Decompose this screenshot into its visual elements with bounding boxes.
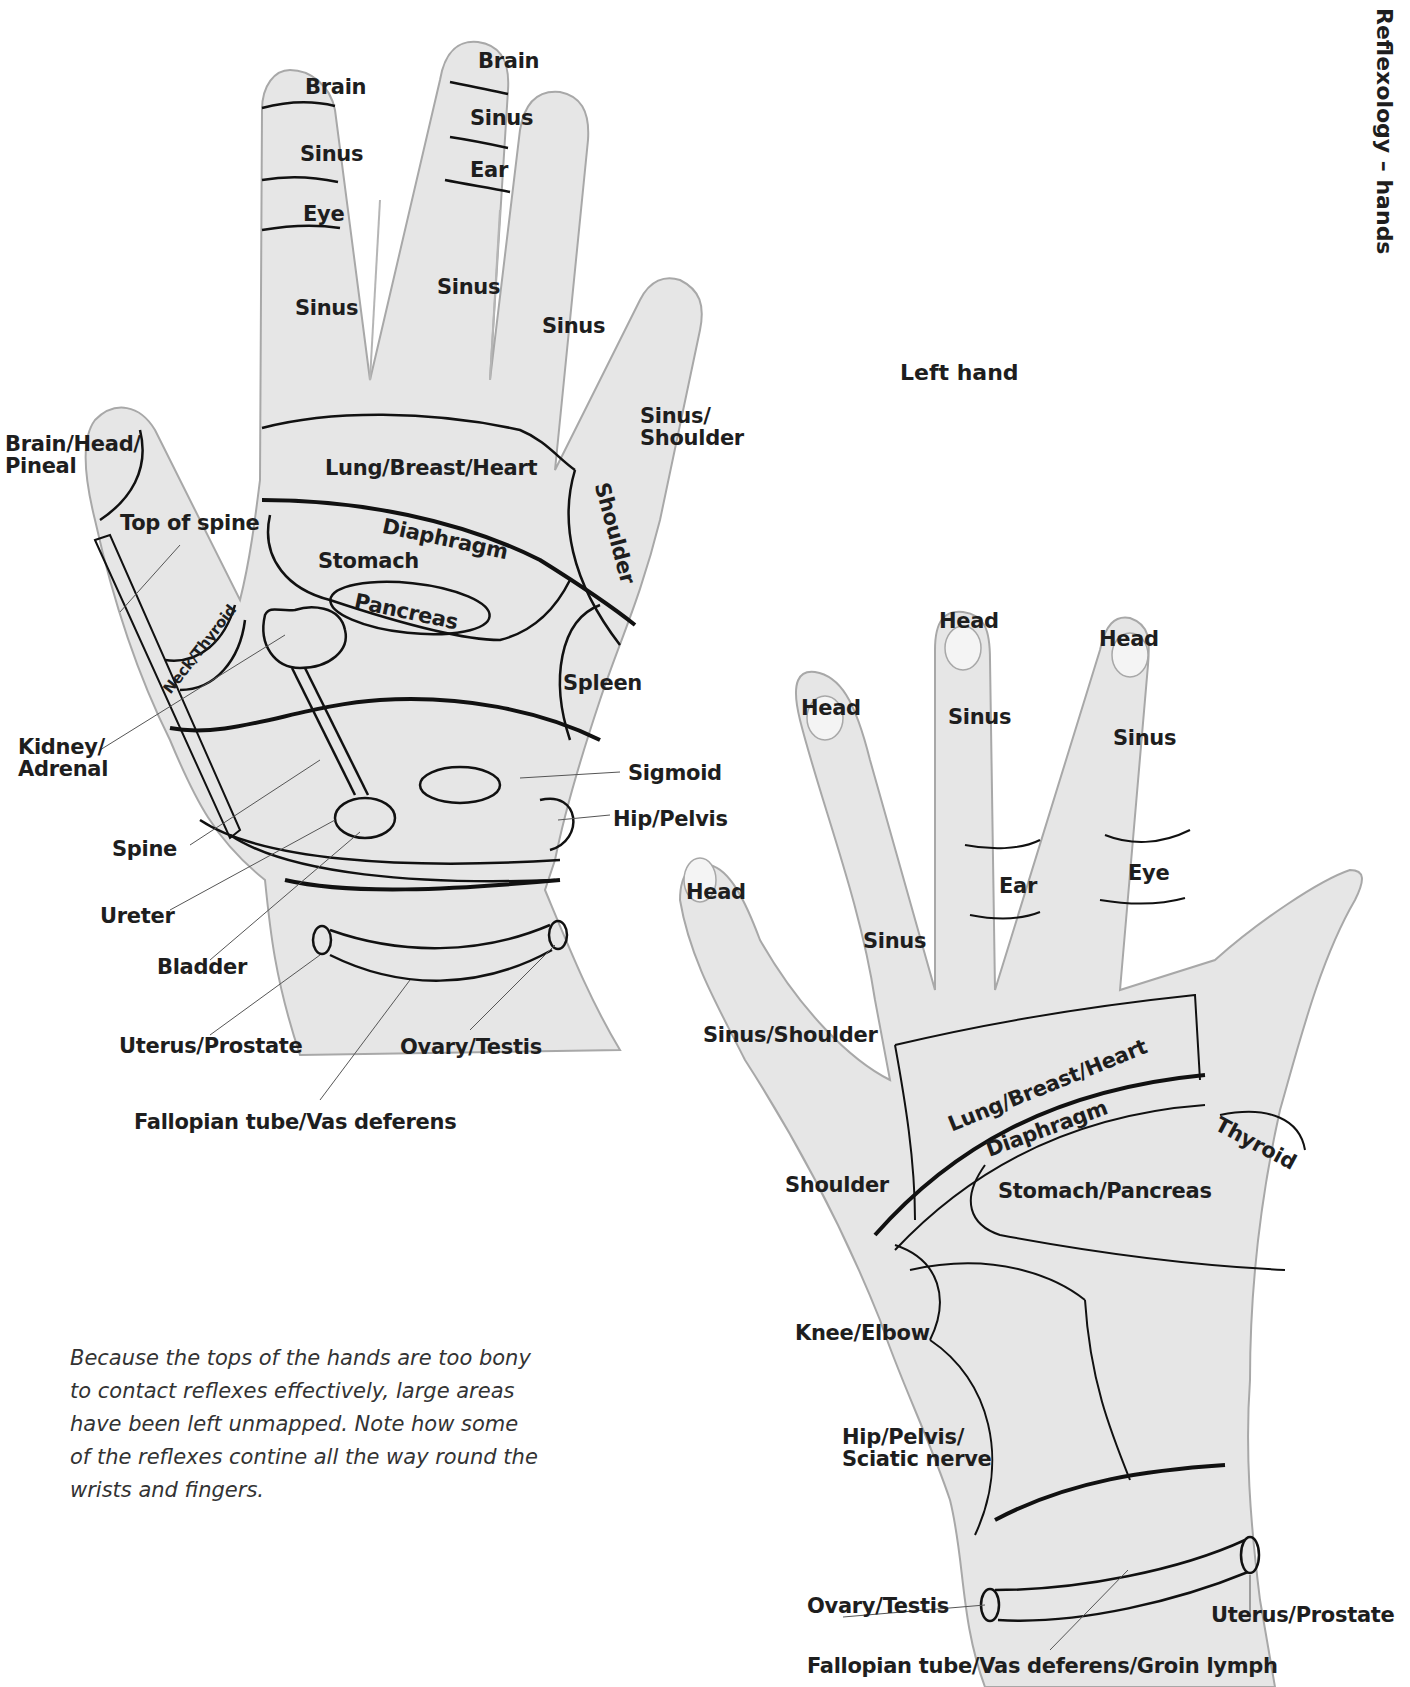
label-brain-index: Brain	[305, 76, 366, 98]
label-kidney-adrenal: Kidney/ Adrenal	[18, 736, 108, 780]
label-ear: Ear	[470, 159, 508, 181]
label-head-pinky: Head	[686, 881, 746, 903]
label-eye: Eye	[1128, 862, 1169, 884]
label-sinus-middle-top: Sinus	[470, 107, 533, 129]
label-sinus-index-top: Sinus	[300, 143, 363, 165]
label-top-of-spine: Top of spine	[120, 512, 260, 534]
label-stomach-pancreas: Stomach/Pancreas	[998, 1180, 1212, 1202]
label-hip-pelvis-sciatic: Hip/Pelvis/ Sciatic nerve	[842, 1426, 992, 1470]
label-lung-breast-heart: Lung/Breast/Heart	[325, 457, 537, 479]
label-uterus-prostate: Uterus/Prostate	[1211, 1604, 1394, 1626]
label-sinus-ring: Sinus	[863, 930, 926, 952]
caption-text: Because the tops of the hands are too bo…	[70, 1342, 540, 1507]
label-head-index: Head	[1099, 628, 1159, 650]
label-eye: Eye	[303, 203, 344, 225]
label-sinus-middle: Sinus	[948, 706, 1011, 728]
label-brain-head-pineal: Brain/Head/ Pineal	[5, 433, 141, 477]
label-fallopian-groin: Fallopian tube/Vas deferens/Groin lymph	[807, 1655, 1278, 1677]
label-fallopian-tube: Fallopian tube/Vas deferens	[134, 1111, 456, 1133]
label-sigmoid: Sigmoid	[628, 762, 722, 784]
label-sinus-ring: Sinus	[542, 315, 605, 337]
label-sinus-index: Sinus	[295, 297, 358, 319]
label-sinus-middle: Sinus	[437, 276, 500, 298]
label-hip-pelvis: Hip/Pelvis	[613, 808, 728, 830]
label-knee-elbow: Knee/Elbow	[795, 1322, 930, 1344]
label-bladder: Bladder	[157, 956, 247, 978]
label-ureter: Ureter	[100, 905, 175, 927]
label-spine: Spine	[112, 838, 177, 860]
label-head-middle: Head	[939, 610, 999, 632]
label-uterus-prostate: Uterus/Prostate	[119, 1035, 302, 1057]
label-shoulder: Shoulder	[785, 1174, 889, 1196]
label-ear: Ear	[999, 875, 1037, 897]
label-head-ring: Head	[801, 697, 861, 719]
label-spleen: Spleen	[563, 672, 642, 694]
label-sinus-index: Sinus	[1113, 727, 1176, 749]
label-brain-middle: Brain	[478, 50, 539, 72]
label-sinus-shoulder: Sinus/Shoulder	[703, 1024, 877, 1046]
page-section-title: Reflexology – hands	[1372, 8, 1397, 254]
label-stomach: Stomach	[318, 550, 419, 572]
label-ovary-testis: Ovary/Testis	[400, 1036, 542, 1058]
label-sinus-shoulder: Sinus/ Shoulder	[640, 405, 744, 449]
label-ovary-testis: Ovary/Testis	[807, 1595, 949, 1617]
left-hand-title: Left hand	[900, 360, 1019, 385]
